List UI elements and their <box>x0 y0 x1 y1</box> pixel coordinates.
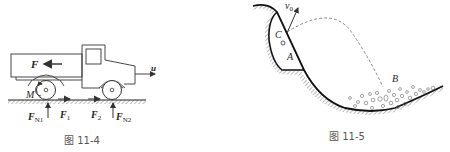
figure-11-4: M F u FN1 FN2 F1 F2 图 11-4 <box>8 45 156 146</box>
label-FN2: FN2 <box>115 111 132 124</box>
point-C-marker <box>281 41 285 45</box>
label-FN1: FN1 <box>27 111 44 124</box>
cab-window <box>86 49 101 64</box>
caption-fig-11-4: 图 11-4 <box>64 135 100 146</box>
label-F: F <box>30 58 39 70</box>
ground <box>8 100 146 104</box>
front-wheel <box>103 81 122 100</box>
label-M: M <box>25 89 35 100</box>
label-C: C <box>275 29 282 40</box>
figure-11-5: v0 C A B <box>253 0 443 142</box>
label-B: B <box>392 73 398 84</box>
diagram-canvas: M F u FN1 FN2 F1 F2 图 11-4 v0 C <box>0 0 450 152</box>
label-v0: v0 <box>285 0 293 13</box>
caption-fig-11-5: 图 11-5 <box>329 131 365 142</box>
label-F1: F1 <box>59 109 71 122</box>
label-F2: F2 <box>90 109 102 122</box>
label-u: u <box>151 63 156 73</box>
rear-wheel <box>37 81 56 100</box>
label-A: A <box>286 51 294 62</box>
cargo-box <box>11 54 82 77</box>
